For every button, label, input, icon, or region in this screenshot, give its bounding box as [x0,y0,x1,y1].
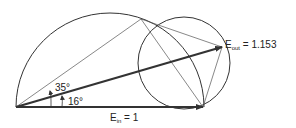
vector-diagram [0,0,296,128]
angle-label-35: 35° [55,83,70,93]
e-in-value: = 1 [121,112,138,123]
angle-label-16: 16° [68,97,83,107]
line-35-degrees [16,19,141,107]
e-in-symbol: E [110,112,117,123]
chord-eout-to-bottom [203,47,222,107]
e-out-symbol: E [225,39,232,50]
right-circle [138,17,230,109]
angle-arc-35 [50,91,51,107]
e-out-label: Eout = 1.153 [225,40,276,51]
e-out-vector [16,47,222,107]
e-out-value: = 1.153 [240,39,276,50]
e-in-label: Ein = 1 [110,113,138,124]
e-out-subscript: out [232,45,240,51]
chord-top-to-eout [141,19,222,47]
